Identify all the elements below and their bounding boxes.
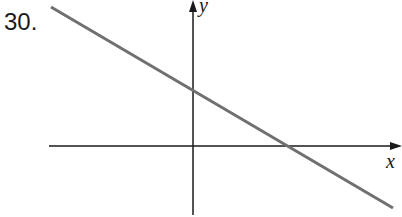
x-axis-label: x [386,150,395,173]
x-axis [49,142,402,150]
y-axis-label: y [199,0,208,17]
coordinate-plane [0,0,402,217]
y-axis [189,0,197,215]
x-axis-arrow-icon [390,142,402,150]
graph-line [51,7,393,208]
y-axis-arrow-icon [189,0,197,12]
